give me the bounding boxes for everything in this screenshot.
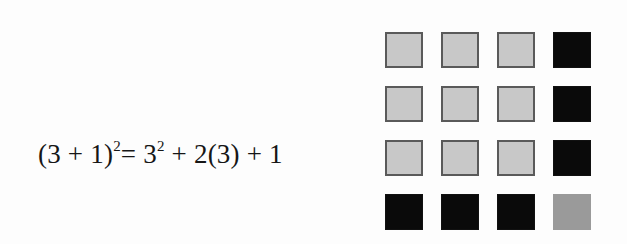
grid-square-dark	[385, 194, 423, 230]
grid-square-light	[385, 86, 423, 122]
grid-square-light	[497, 32, 535, 68]
grid-square-light	[441, 86, 479, 122]
grid-square-light	[441, 32, 479, 68]
grid-square-dark	[553, 86, 591, 122]
grid-square-dark	[553, 140, 591, 176]
grid-square-light	[441, 140, 479, 176]
grid-square-light	[497, 140, 535, 176]
square-grid	[385, 32, 591, 230]
grid-square-mid	[553, 194, 591, 230]
equation: (3 + 1)2= 32 + 2(3) + 1	[38, 139, 283, 170]
grid-square-dark	[497, 194, 535, 230]
grid-square-light	[497, 86, 535, 122]
grid-square-dark	[441, 194, 479, 230]
lhs-exponent: 2	[113, 138, 121, 154]
grid-square-light	[385, 140, 423, 176]
equation-lhs: (3 + 1)	[38, 139, 113, 169]
equation-rhs: + 2(3) + 1	[165, 139, 283, 169]
rhs-exponent: 2	[157, 138, 165, 154]
grid-square-light	[385, 32, 423, 68]
equation-equals-three: = 3	[121, 139, 157, 169]
grid-square-dark	[553, 32, 591, 68]
